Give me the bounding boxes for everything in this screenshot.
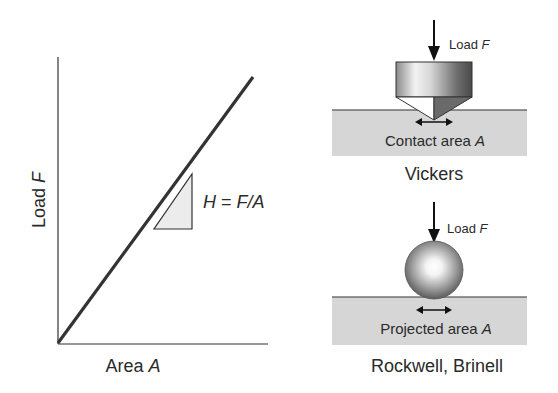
load-area-graph: H = F/A Load F Area A [29, 57, 268, 376]
vickers-indenter-diagram: Load F Contact area A Vickers [332, 20, 527, 184]
brinell-ball [405, 241, 463, 299]
y-axis-label: Load F [29, 171, 49, 228]
brinell-title: Rockwell, Brinell [371, 356, 503, 376]
hardness-diagram: H = F/A Load F Area A Load F Contact are… [0, 0, 558, 393]
load-arrowhead-icon [428, 46, 440, 61]
vickers-load-label: Load F [449, 37, 491, 52]
projected-area-label: Projected area A [380, 320, 492, 337]
slope-triangle [154, 174, 192, 229]
vickers-cylinder [396, 62, 472, 97]
slope-label: H = F/A [203, 192, 265, 212]
brinell-indenter-diagram: Load F Projected area A Rockwell, Brinel… [332, 202, 527, 376]
vickers-title: Vickers [405, 164, 464, 184]
x-axis-label: Area A [105, 356, 160, 376]
contact-area-label: Contact area A [385, 132, 485, 149]
brinell-load-label: Load F [447, 221, 489, 236]
